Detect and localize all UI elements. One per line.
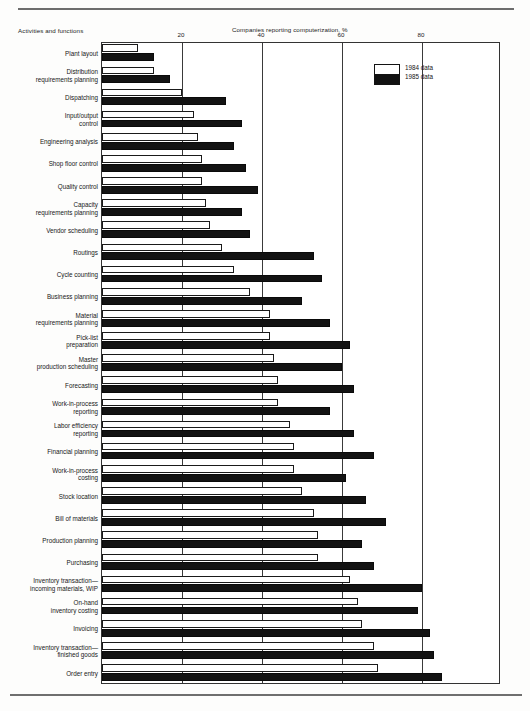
bar-1985 [102, 584, 422, 592]
bar-1985 [102, 252, 314, 260]
x-tick-label: 60 [338, 31, 345, 38]
bar-1984 [102, 443, 294, 451]
chart-row: Plant layout [102, 43, 499, 65]
category-label: Plant layout [4, 50, 98, 58]
chart-row: Labor efficiency reporting [102, 419, 499, 441]
bar-1984 [102, 177, 202, 185]
category-label: Engineering analysis [4, 138, 98, 146]
bar-1985 [102, 474, 346, 482]
chart-row: Material requirements planning [102, 309, 499, 331]
category-label: Input/output control [4, 112, 98, 127]
bar-1985 [102, 341, 350, 349]
plot-area: Plant layoutDistribution requirements pl… [101, 42, 500, 684]
x-tick-label: 20 [178, 31, 185, 38]
bar-1984 [102, 244, 222, 252]
chart-row: Input/output control [102, 109, 499, 131]
bar-1985 [102, 363, 342, 371]
category-label: Work-in-process costing [4, 467, 98, 482]
category-label: Dispatching [4, 94, 98, 102]
chart-row: Work-in-process costing [102, 464, 499, 486]
chart-row: Cycle counting [102, 264, 499, 286]
bar-1985 [102, 97, 226, 105]
bar-1985 [102, 275, 322, 283]
chart-row: Purchasing [102, 552, 499, 574]
bar-1985 [102, 518, 386, 526]
bar-1984 [102, 332, 270, 340]
bar-1985 [102, 629, 430, 637]
bar-1985 [102, 407, 330, 415]
legend-swatch-group [374, 64, 400, 86]
category-label: Master production scheduling [4, 356, 98, 371]
bar-1985 [102, 651, 434, 659]
page-top-rule [18, 8, 514, 10]
x-tick-label: 80 [418, 31, 425, 38]
category-label: Forecasting [4, 382, 98, 390]
chart-row: Quality control [102, 176, 499, 198]
bar-1985 [102, 430, 354, 438]
bar-1985 [102, 607, 418, 615]
bar-1984 [102, 155, 202, 163]
bar-1985 [102, 142, 234, 150]
bar-1984 [102, 133, 198, 141]
bar-1985 [102, 319, 330, 327]
bar-1984 [102, 354, 274, 362]
legend: 1984 data1985 data [374, 63, 452, 93]
chart-row: On-hand inventory costing [102, 596, 499, 618]
category-label: Cycle counting [4, 271, 98, 279]
chart-row: Order entry [102, 663, 499, 685]
chart-row: Business planning [102, 287, 499, 309]
chart-row: Work-in-process reporting [102, 397, 499, 419]
bar-1984 [102, 620, 362, 628]
bar-1984 [102, 44, 138, 52]
legend-label: 1985 data [405, 73, 433, 80]
bar-1984 [102, 421, 290, 429]
chart-row: Master production scheduling [102, 353, 499, 375]
chart-row: Shop floor control [102, 154, 499, 176]
category-label: Quality control [4, 183, 98, 191]
bar-1984 [102, 89, 182, 97]
chart-row: Pick-list preparation [102, 331, 499, 353]
bar-1985 [102, 297, 302, 305]
bar-1984 [102, 288, 250, 296]
chart-row: Forecasting [102, 375, 499, 397]
chart-row: Invoicing [102, 619, 499, 641]
bar-1985 [102, 230, 250, 238]
category-label: Invoicing [4, 625, 98, 633]
chart-row: Routings [102, 242, 499, 264]
bar-1984 [102, 199, 206, 207]
bar-1984 [102, 221, 210, 229]
category-label: Inventory transaction— finished goods [4, 644, 98, 659]
bar-1984 [102, 598, 358, 606]
bar-1985 [102, 673, 442, 681]
category-label: Bill of materials [4, 515, 98, 523]
category-label: Order entry [4, 670, 98, 678]
bar-1985 [102, 208, 242, 216]
category-label: Production planning [4, 537, 98, 545]
category-label: Shop floor control [4, 160, 98, 168]
bar-1984 [102, 465, 294, 473]
category-label: On-hand inventory costing [4, 599, 98, 614]
bar-1985 [102, 53, 154, 61]
category-label: Distribution requirements planning [4, 68, 98, 83]
chart-row: Inventory transaction— incoming material… [102, 574, 499, 596]
bar-1984 [102, 531, 318, 539]
chart-row: Bill of materials [102, 508, 499, 530]
bar-1985 [102, 540, 362, 548]
chart-row: Vendor scheduling [102, 220, 499, 242]
chart-row: Production planning [102, 530, 499, 552]
category-label: Pick-list preparation [4, 334, 98, 349]
x-tick-label: 40 [258, 31, 265, 38]
chart-row: Financial planning [102, 441, 499, 463]
category-label: Financial planning [4, 448, 98, 456]
bar-1984 [102, 664, 378, 672]
category-label: Purchasing [4, 559, 98, 567]
category-label: Inventory transaction— incoming material… [4, 577, 98, 592]
chart-row: Engineering analysis [102, 132, 499, 154]
bar-1985 [102, 120, 242, 128]
bar-1985 [102, 385, 354, 393]
y-axis-title: Activities and functions [18, 27, 83, 34]
bar-1984 [102, 399, 278, 407]
bar-1984 [102, 266, 234, 274]
legend-swatch-dark [374, 74, 400, 85]
bar-1984 [102, 487, 302, 495]
